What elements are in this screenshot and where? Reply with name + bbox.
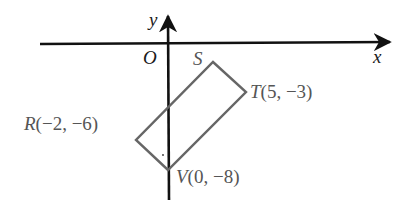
- coordinate-diagram: y x O S T(5, −3) R(−2, −6) V(0, −8): [0, 0, 411, 207]
- vertex-r-label: R(−2, −6): [23, 113, 98, 135]
- vertex-s-label: S: [193, 48, 203, 69]
- origin-label: O: [143, 47, 157, 68]
- vertex-t-coords: (5, −3): [261, 81, 313, 103]
- y-axis-label: y: [147, 9, 158, 30]
- vertex-t-label: T(5, −3): [250, 81, 312, 103]
- vertex-r-name: R: [23, 113, 36, 134]
- rectangle-rstv: [136, 62, 246, 170]
- vertex-v-label: V(0, −8): [176, 166, 239, 188]
- x-axis: [40, 42, 390, 44]
- right-angle-dot: [162, 154, 164, 156]
- vertex-r-coords: (−2, −6): [36, 113, 99, 135]
- x-axis-label: x: [372, 46, 382, 67]
- vertex-v-coords: (0, −8): [188, 166, 240, 188]
